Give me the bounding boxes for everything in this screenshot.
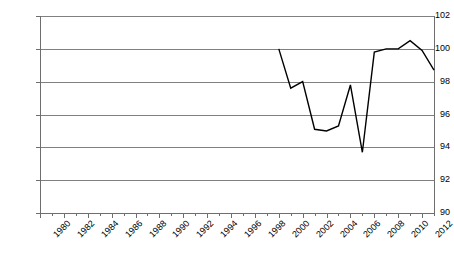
series-1-line (279, 41, 434, 153)
